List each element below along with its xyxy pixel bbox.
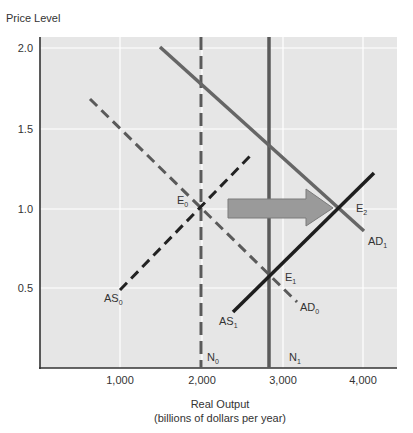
x-tick-label: 4,000 (349, 374, 377, 386)
x-tick-label: 2,000 (188, 374, 216, 386)
y-axis-title: Price Level (6, 12, 60, 24)
x-tick-label: 3,000 (269, 374, 297, 386)
aggregate-supply-demand-chart: Price Level 2.0 1.5 1.0 0.5 1,000 2,000 … (0, 0, 413, 433)
y-tick-label: 0.5 (18, 282, 33, 294)
x-axis-subtitle: (billions of dollars per year) (154, 412, 286, 424)
y-tick-label: 1.0 (18, 203, 33, 215)
y-tick-label: 2.0 (18, 42, 33, 54)
y-tick-label: 1.5 (18, 123, 33, 135)
x-axis-title: Real Output (191, 398, 250, 410)
x-tick-label: 1,000 (106, 374, 134, 386)
